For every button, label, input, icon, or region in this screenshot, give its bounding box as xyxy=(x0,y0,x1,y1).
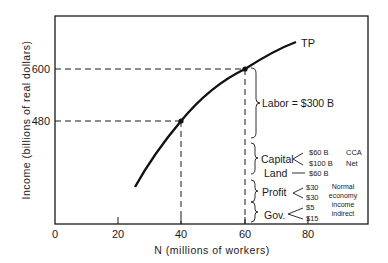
y-tick-600: 600 xyxy=(32,63,50,75)
chart: TP 600 480 0 20 40 60 80 N (millions of … xyxy=(0,0,388,263)
note-line-2: economy xyxy=(329,192,358,200)
x-tick-20: 20 xyxy=(112,228,124,240)
x-tick-80: 80 xyxy=(302,228,314,240)
point-60-600 xyxy=(242,66,247,71)
capital-cca-value: $60 B xyxy=(309,148,329,157)
gov-label: Gov. xyxy=(264,209,285,221)
land-label: Land xyxy=(264,167,288,179)
gov-value-2: $15 xyxy=(306,214,319,223)
note-line-4: indirect xyxy=(332,210,355,217)
profit-value-2: $30 xyxy=(306,193,319,202)
x-axis-label: N (millions of workers) xyxy=(154,244,269,256)
y-tick-480: 480 xyxy=(32,115,50,127)
braces xyxy=(251,68,260,222)
gov-value-1: $5 xyxy=(306,203,314,212)
guide-lines xyxy=(55,69,245,224)
profit-value-1: $30 xyxy=(306,183,319,192)
x-tick-0: 0 xyxy=(52,228,58,240)
x-tick-60: 60 xyxy=(239,228,251,240)
land-value: $60 B xyxy=(309,169,329,178)
gov-split xyxy=(288,208,303,219)
x-tick-40: 40 xyxy=(175,228,187,240)
profit-label: Profit xyxy=(262,186,287,198)
curve-label: TP xyxy=(301,37,315,49)
tp-curve xyxy=(135,42,296,187)
capital-net-value: $100 B xyxy=(309,159,333,168)
note-line-1: Normal xyxy=(332,183,355,190)
labor-label: Labor = $300 B xyxy=(262,97,334,109)
capital-cca-label: CCA xyxy=(346,148,362,157)
capital-split xyxy=(293,153,303,165)
capital-label: Capital xyxy=(261,153,294,165)
plot-frame xyxy=(55,16,368,224)
note-line-3: income xyxy=(332,201,355,208)
y-axis-label: Income (billions of real dollars) xyxy=(20,41,32,200)
capital-net-label: Net xyxy=(346,159,359,168)
profit-split xyxy=(293,188,303,198)
point-40-480 xyxy=(178,118,183,123)
